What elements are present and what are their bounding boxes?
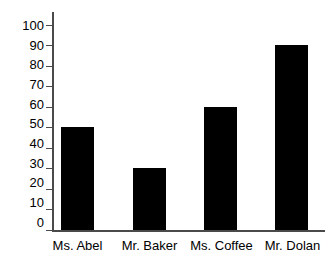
- y-tick-label-90: 90: [2, 39, 44, 52]
- y-tick-label-0: 0: [2, 216, 44, 229]
- bar-ms-coffee[interactable]: [204, 107, 237, 230]
- bar-chart: 100 90 80 70 60 50 40 30 20 10 0 Ms. Abe…: [0, 0, 336, 264]
- bar-ms-abel[interactable]: [61, 127, 94, 230]
- y-tick-label-40: 40: [2, 137, 44, 150]
- y-tick-label-70: 70: [2, 78, 44, 91]
- y-tick-label-80: 80: [2, 58, 44, 71]
- y-tick-label-50: 50: [2, 117, 44, 130]
- x-tick-label-ms-abel: Ms. Abel: [42, 238, 113, 253]
- y-axis-line: [52, 12, 54, 231]
- x-tick-label-mr-baker: Mr. Baker: [114, 238, 185, 253]
- y-tick-label-20: 20: [2, 176, 44, 189]
- y-axis-tick-labels: 100 90 80 70 60 50 40 30 20 10 0: [0, 0, 44, 264]
- x-tick-label-ms-coffee: Ms. Coffee: [184, 238, 259, 253]
- y-tick-label-100: 100: [2, 19, 44, 32]
- bar-mr-baker[interactable]: [133, 168, 166, 230]
- x-tick-label-mr-dolan: Mr. Dolan: [256, 238, 329, 253]
- y-tick-label-30: 30: [2, 157, 44, 170]
- x-axis-line: [52, 230, 325, 232]
- y-tick-label-60: 60: [2, 98, 44, 111]
- y-tick-label-10: 10: [2, 196, 44, 209]
- bar-mr-dolan[interactable]: [275, 45, 308, 230]
